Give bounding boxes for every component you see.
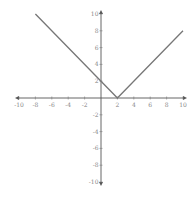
x-tick-label: -10 <box>14 101 24 108</box>
x-tick-label: -6 <box>49 101 55 108</box>
y-tick-label: 4 <box>95 60 99 67</box>
x-tick-label: 4 <box>132 101 136 108</box>
y-tick-label: -10 <box>89 178 99 185</box>
graph-canvas: -10-8-6-4-2246810108642-2-4-6-8-10 <box>0 0 195 199</box>
x-tick-label: 6 <box>148 101 152 108</box>
x-axis-left-arrow-icon <box>15 96 19 100</box>
x-tick-label: -2 <box>82 101 88 108</box>
x-tick-label: 8 <box>165 101 169 108</box>
x-tick-label: 2 <box>115 101 119 108</box>
y-tick-label: -4 <box>93 128 99 135</box>
x-tick-label: -4 <box>65 101 71 108</box>
x-axis-right-arrow-icon <box>183 96 187 100</box>
coordinate-plane: -10-8-6-4-2246810108642-2-4-6-8-10 <box>0 0 195 199</box>
x-tick-label: 10 <box>179 101 187 108</box>
y-axis-up-arrow-icon <box>99 10 103 14</box>
x-tick-label: -8 <box>32 101 38 108</box>
y-tick-label: -8 <box>93 161 99 168</box>
y-axis-down-arrow-icon <box>99 182 103 186</box>
y-tick-label: 8 <box>95 27 99 34</box>
axes <box>15 10 187 186</box>
y-tick-label: 6 <box>95 44 99 51</box>
y-tick-label: 10 <box>91 10 99 17</box>
y-tick-label: -6 <box>93 144 99 151</box>
absolute-value-curve <box>35 14 183 98</box>
y-tick-label: -2 <box>93 111 99 118</box>
